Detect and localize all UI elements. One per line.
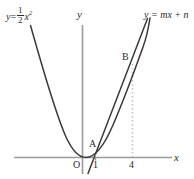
parabola-equation-label: y=12x2 [6, 6, 32, 26]
point-label-b: B [122, 52, 129, 62]
fraction-numerator: 1 [17, 6, 24, 15]
tick-label-4: 4 [129, 160, 134, 170]
one-half-fraction: 12 [17, 6, 24, 26]
origin-label: O [73, 160, 80, 170]
point-label-a: A [89, 139, 96, 149]
straight-line [88, 19, 148, 174]
y-axis-label: y [77, 9, 82, 20]
math-figure: y=12x2 y = mx + n y x O 1 4 A B [0, 0, 194, 179]
tick-label-1: 1 [93, 160, 98, 170]
graph-canvas [0, 0, 194, 179]
fraction-denominator: 2 [17, 15, 24, 25]
x-axis-label: x [174, 152, 179, 163]
line-equation-label: y = mx + n [144, 10, 189, 20]
parabola-eq-equals: = [10, 11, 16, 22]
parabola-eq-exponent: 2 [29, 9, 32, 16]
